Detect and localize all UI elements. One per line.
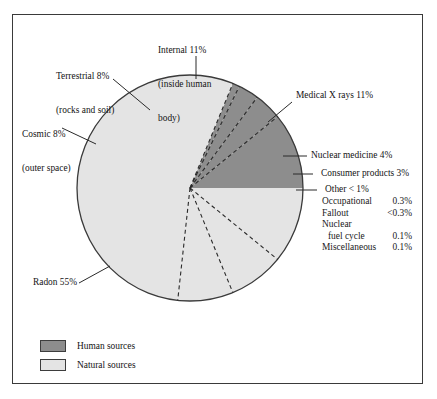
other-breakdown-name: Miscellaneous (322, 242, 376, 252)
label-other: Other < 1% (325, 184, 369, 195)
label-consumer-products: Consumer products 3% (321, 168, 409, 179)
pie-chart-figure: Internal 11% (inside human body) Terrest… (0, 0, 437, 399)
chart-legend: Human sourcesNatural sources (40, 337, 220, 375)
leader-radon (79, 266, 110, 283)
other-breakdown-name: Occupational (322, 196, 372, 206)
label-cosmic-line1: Cosmic 8% (22, 129, 71, 140)
other-breakdown-row: Nuclear (322, 219, 428, 231)
legend-item: Natural sources (40, 356, 220, 373)
legend-label: Human sources (77, 341, 135, 351)
legend-label: Natural sources (77, 360, 136, 370)
legend-swatch (40, 340, 66, 352)
label-internal: Internal 11% (inside human body) (158, 22, 211, 147)
other-breakdown-list: Occupational0.3%Fallout<0.3%Nuclearfuel … (322, 196, 428, 254)
legend-item: Human sources (40, 337, 220, 354)
label-cosmic: Cosmic 8% (outer space) (22, 106, 71, 197)
label-terrestrial-line1: Terrestrial 8% (56, 71, 114, 82)
other-breakdown-name: Nuclear (322, 219, 352, 229)
label-medical-xrays: Medical X rays 11% (296, 90, 373, 101)
other-breakdown-value: <0.3% (387, 208, 412, 218)
other-breakdown-value: 0.1% (392, 231, 412, 241)
other-breakdown-row: Fallout<0.3% (322, 208, 428, 220)
legend-swatch (40, 359, 66, 371)
label-internal-line3: body) (158, 113, 211, 124)
other-breakdown-row: Occupational0.3% (322, 196, 428, 208)
other-breakdown-value: 0.3% (392, 196, 412, 206)
other-breakdown-row: fuel cycle0.1% (322, 231, 428, 243)
other-breakdown-name: Fallout (322, 208, 349, 218)
label-internal-line1: Internal 11% (158, 45, 211, 56)
label-nuclear-medicine: Nuclear medicine 4% (311, 150, 392, 161)
other-breakdown-name: fuel cycle (328, 231, 365, 241)
other-breakdown-row: Miscellaneous0.1% (322, 242, 428, 254)
label-internal-line2: (inside human (158, 79, 211, 90)
label-cosmic-line2: (outer space) (22, 163, 71, 174)
other-breakdown-value: 0.1% (392, 242, 412, 252)
label-radon: Radon 55% (33, 277, 77, 288)
